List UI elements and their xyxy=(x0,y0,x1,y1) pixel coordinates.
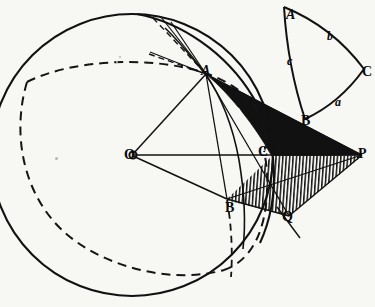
arc-A-to-B xyxy=(165,28,244,249)
label-side-a: a xyxy=(335,96,341,108)
label-point-Q: Q xyxy=(282,210,293,224)
scan-speck xyxy=(119,56,121,58)
label-point-P: P xyxy=(358,147,367,161)
label-small-triangle-B: B xyxy=(301,114,310,128)
diagram-svg xyxy=(0,0,375,307)
small-spherical-triangle xyxy=(284,7,364,119)
label-side-c: c xyxy=(287,55,292,67)
scan-speck xyxy=(55,157,58,160)
small-triangle-side-a xyxy=(305,69,364,119)
label-point-A: A xyxy=(201,64,210,78)
scan-speck xyxy=(116,61,118,63)
meridian-arc-through-A xyxy=(137,14,274,243)
label-point-C: C xyxy=(258,145,268,159)
figure-canvas: O A B C P Q A B C a b c xyxy=(0,0,375,307)
radius-O-to-B xyxy=(133,156,227,199)
radius-O-to-A xyxy=(133,74,206,154)
label-point-B: B xyxy=(225,201,234,215)
label-side-b: b xyxy=(327,30,333,42)
label-small-triangle-A: A xyxy=(286,8,295,22)
small-triangle-side-b xyxy=(284,7,364,69)
label-small-triangle-C: C xyxy=(362,65,372,79)
label-point-O: O xyxy=(124,148,135,162)
